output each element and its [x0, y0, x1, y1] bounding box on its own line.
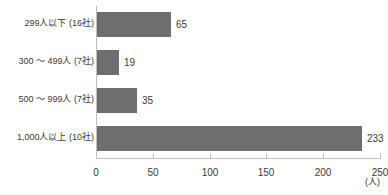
- category-label-0: 299人以下 (16社): [0, 18, 94, 29]
- bar-0: [97, 12, 171, 37]
- x-tick-label-1: 50: [147, 167, 158, 178]
- bar-value-3: 233: [367, 126, 384, 151]
- x-tick-label-4: 200: [315, 167, 332, 178]
- bar-2: [97, 88, 137, 113]
- bar-3: [97, 126, 362, 151]
- bar-1: [97, 50, 119, 75]
- x-axis-tick-50: [153, 153, 154, 159]
- x-axis-tick-100: [210, 153, 211, 159]
- x-axis-line: [96, 158, 381, 159]
- x-axis-tick-250: [380, 153, 381, 159]
- bar-value-1: 19: [124, 50, 135, 75]
- x-axis-tick-200: [323, 153, 324, 159]
- plot-area: 65 19 35 233 0 50 100 150 200 250: [96, 6, 380, 158]
- category-label-2: 500 〜 999人 (7社): [0, 94, 94, 105]
- x-tick-label-3: 150: [258, 167, 275, 178]
- x-axis-unit-label: (人): [365, 175, 380, 188]
- x-tick-label-2: 100: [202, 167, 219, 178]
- category-label-1: 300 〜 499人 (7社): [0, 56, 94, 67]
- x-tick-label-0: 0: [93, 167, 99, 178]
- bar-value-0: 65: [176, 12, 187, 37]
- x-axis-tick-150: [266, 153, 267, 159]
- category-label-3: 1,000人以上 (10社): [0, 132, 94, 143]
- bar-value-2: 35: [142, 88, 153, 113]
